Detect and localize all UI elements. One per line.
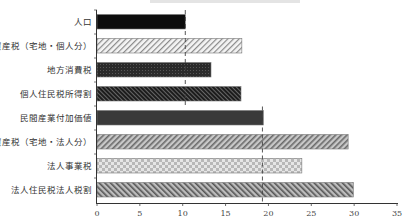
bars-group	[94, 10, 353, 197]
bar	[97, 135, 348, 150]
bar	[97, 159, 302, 174]
bar	[97, 183, 353, 198]
x-axis-ticks: 05101520253035	[94, 203, 402, 218]
category-label: 地方消費税	[47, 65, 92, 75]
x-tick-label: 10	[178, 209, 188, 218]
x-tick-label: 25	[306, 209, 316, 218]
bar	[97, 39, 242, 54]
category-label: 民間産業付加価値	[20, 113, 92, 123]
category-labels: 人口固定資産税（宅地・個人分）地方消費税個人住民税所得割民間産業付加価値固定資産…	[0, 17, 92, 195]
category-label: 法人住民税法人税割	[11, 185, 92, 195]
bar-chart: 人口固定資産税（宅地・個人分）地方消費税個人住民税所得割民間産業付加価値固定資産…	[0, 0, 404, 221]
x-tick-label: 0	[94, 209, 99, 218]
x-tick-label: 35	[392, 209, 402, 218]
bar	[97, 63, 211, 78]
category-label: 固定資産税（宅地・個人分）	[0, 41, 92, 51]
title-ghost	[150, 0, 300, 3]
x-tick-label: 5	[137, 209, 142, 218]
bar	[97, 87, 241, 102]
bar	[97, 15, 185, 30]
bar	[97, 111, 263, 126]
category-label: 個人住民税所得割	[20, 89, 92, 99]
category-label: 法人事業税	[47, 161, 92, 171]
x-tick-label: 20	[263, 209, 273, 218]
category-label: 人口	[74, 17, 92, 27]
x-tick-label: 15	[220, 209, 230, 218]
x-tick-label: 30	[349, 209, 359, 218]
category-label: 固定資産税（宅地・法人分）	[0, 137, 92, 147]
